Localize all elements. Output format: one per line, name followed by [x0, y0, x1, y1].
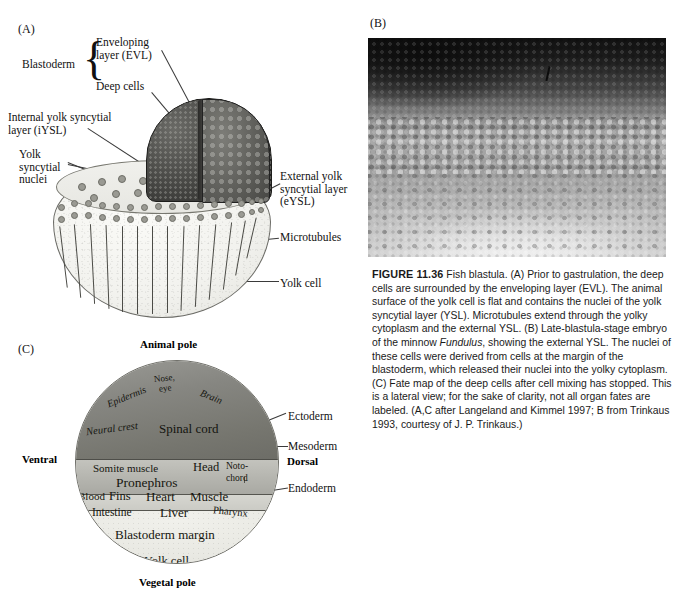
eysl-nucleus — [58, 204, 65, 211]
microtubule — [122, 226, 123, 312]
eysl-nucleus — [249, 199, 255, 205]
eysl-nucleus — [85, 212, 92, 219]
eysl-nucleus — [249, 209, 255, 215]
eysl-nucleus — [169, 215, 176, 222]
panel-b: (B) — [368, 14, 668, 264]
label-yolk-cell: Yolk cell — [280, 277, 321, 290]
label-ectoderm: Ectoderm — [288, 410, 333, 423]
leader-line — [161, 50, 191, 105]
fate-intestine: Intestine — [92, 506, 132, 518]
micrograph-vignette — [368, 38, 666, 257]
species-name: Fundulus — [440, 337, 483, 348]
eysl-nucleus — [141, 204, 148, 211]
eysl-nucleus — [197, 202, 204, 209]
panel-a-id: (A) — [18, 22, 35, 37]
ysl-nucleus — [78, 183, 86, 191]
ysl-nucleus — [112, 190, 120, 198]
label-dorsal: Dorsal — [287, 455, 318, 467]
eysl-nucleus — [113, 203, 120, 210]
eysl-nucleus — [127, 204, 134, 211]
fate-eye: eye — [159, 382, 172, 393]
ysl-nucleus — [139, 177, 147, 185]
fate-muscle: Muscle — [190, 489, 228, 505]
label-vegetal-pole: Vegetal pole — [139, 576, 196, 588]
eysl-nucleus — [155, 203, 162, 210]
eysl-nucleus — [127, 216, 134, 223]
eysl-nucleus — [258, 198, 264, 204]
label-endoderm: Endoderm — [288, 482, 336, 495]
eysl-nucleus — [71, 212, 78, 219]
fate-spinal-cord: Spinal cord — [159, 421, 219, 437]
panel-b-id: (B) — [370, 16, 386, 31]
fate-liver: Liver — [160, 505, 188, 521]
ectoderm-region — [76, 361, 278, 459]
fate-map-disc: Nose, eye Epidermis Brain Neural crest S… — [75, 360, 279, 564]
deep-cells-cut-face — [202, 99, 270, 203]
eysl-nucleus — [211, 201, 218, 208]
microtubule — [167, 226, 168, 313]
label-deep-cells: Deep cells — [96, 80, 144, 93]
fundulus-blastula-micrograph — [368, 38, 666, 257]
eysl-nucleus — [113, 215, 120, 222]
eysl-nucleus — [225, 200, 232, 207]
fate-somite-muscle: Somite muscle — [93, 462, 158, 474]
figure-number: FIGURE 11.36 — [372, 268, 443, 280]
fate-noto: Noto- — [226, 461, 248, 471]
notochord-divider — [244, 477, 275, 482]
fate-head: Head — [193, 460, 219, 475]
eysl-nucleus — [238, 200, 245, 207]
eysl-nucleus — [58, 216, 65, 223]
fate-yolk-cell: Yolk cell — [144, 554, 189, 564]
eysl-nucleus — [197, 214, 204, 221]
label-external-ysl: External yolksyncytial layer(eYSL) — [280, 170, 347, 208]
ysl-nucleus — [118, 175, 126, 183]
fate-fins: Fins — [109, 489, 131, 504]
microtubule — [137, 226, 138, 314]
fate-blastoderm-margin: Blastoderm margin — [115, 527, 215, 543]
ysl-nucleus — [98, 178, 106, 186]
eysl-nucleus — [258, 207, 264, 213]
eysl-nucleus — [71, 200, 78, 207]
caption-text: , showing the external YSL. The nuclei o… — [372, 337, 672, 430]
fate-heart: Heart — [146, 489, 175, 505]
ysl-nucleus — [134, 189, 142, 197]
eysl-nucleus — [183, 203, 190, 210]
panel-c-id: (C) — [18, 342, 34, 357]
label-animal-pole: Animal pole — [140, 338, 197, 350]
eysl-nucleus — [99, 214, 106, 221]
eysl-nucleus — [225, 212, 232, 219]
fate-blood: Blood — [78, 490, 105, 502]
eysl-nucleus — [169, 203, 176, 210]
figure-caption: FIGURE 11.36 Fish blastula. (A) Prior to… — [372, 268, 672, 431]
label-ventral: Ventral — [22, 453, 57, 465]
eysl-nucleus — [141, 216, 148, 223]
label-microtubules: Microtubules — [280, 231, 341, 244]
label-mesoderm: Mesoderm — [288, 440, 337, 453]
panel-c: (C) Animal pole Vegetal pole Ventral Dor… — [0, 330, 372, 597]
eysl-nucleus — [155, 215, 162, 222]
eysl-nucleus — [99, 202, 106, 209]
eysl-nucleus — [85, 200, 92, 207]
figure-11-36: (A) Blastoderm { Envelopinglayer (EVL) D… — [0, 0, 696, 597]
panel-a: (A) Blastoderm { Envelopinglayer (EVL) D… — [0, 0, 372, 330]
eysl-nucleus — [183, 215, 190, 222]
fate-chord: chord — [226, 473, 248, 483]
microtubule — [152, 226, 153, 314]
eysl-nucleus — [238, 211, 245, 218]
label-blastoderm: Blastoderm — [22, 58, 75, 71]
eysl-nucleus — [211, 213, 218, 220]
label-enveloping-layer: Envelopinglayer (EVL) — [96, 36, 152, 61]
